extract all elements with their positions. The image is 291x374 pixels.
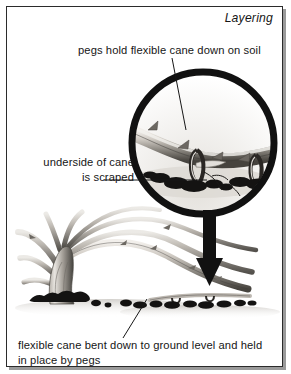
soil-clump [219,184,233,191]
soil-clump [217,300,232,307]
arrow-shaft [203,210,216,262]
soil-clump [181,180,207,192]
soil-clump [120,300,132,307]
lower-scene [15,208,280,319]
thorn [163,224,171,230]
soil-clump [150,300,163,307]
soil-clump [105,303,112,308]
arching-canes [60,208,256,289]
soil-clump [234,300,246,306]
cane-left-mid [20,258,56,276]
figure-title: Layering [225,11,273,26]
cane-left-vertical [46,214,60,250]
soil-clump [164,301,180,309]
soil-clump [198,301,214,309]
soil-clump [248,300,257,305]
caption-pegs-hold-cane: pegs hold flexible cane down on soil [78,43,261,58]
caption-underside-scraped: underside of cane is scraped [12,155,134,184]
layering-figure: Layering pegs hold flexible cane down on… [0,0,291,374]
soil-clump [183,300,197,307]
soil-clump [91,300,101,306]
caption-flexible-cane-bent: flexible cane bent down to ground level … [18,338,274,367]
soil-clump [143,172,157,179]
